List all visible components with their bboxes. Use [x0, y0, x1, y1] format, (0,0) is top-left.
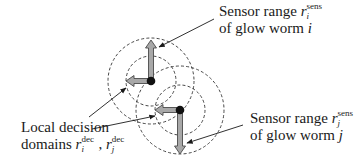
sensor-range-label-j-line2: of glow worm j: [250, 127, 358, 144]
glow-worm-i-dot: [147, 77, 156, 86]
decision-domain-label: Local decision domains rdeci, rdecj: [21, 119, 129, 153]
movement-arrow-down-j: [175, 110, 186, 154]
pointer-sensor-i: [159, 19, 214, 47]
sensor-range-label-i: Sensor range rsensi of glow worm i: [219, 3, 329, 37]
glow-worm-j-dot: [176, 106, 185, 115]
movement-arrow-up-i: [146, 40, 157, 81]
sensor-range-label-i-line1: Sensor range rsensi: [219, 3, 329, 20]
sensor-range-label-j: Sensor range rsensj of glow worm j: [250, 110, 358, 144]
pointer-sensor-j: [187, 125, 243, 143]
sensor-range-label-i-line2: of glow worm i: [219, 20, 329, 37]
sensor-range-label-j-line1: Sensor range rsensj: [250, 110, 358, 127]
pointer-decision-i: [89, 88, 126, 117]
decision-domain-label-line2: domains rdeci, rdecj: [21, 136, 129, 153]
